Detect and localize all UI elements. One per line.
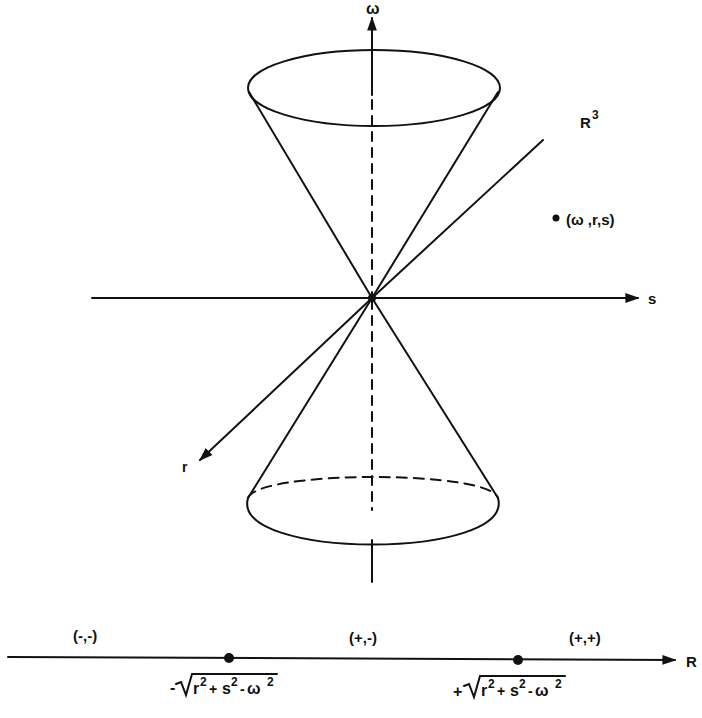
- r-axis-label: r: [182, 459, 188, 475]
- real-line-label: R: [686, 653, 697, 670]
- svg-text:3: 3: [592, 108, 599, 122]
- s-axis-label: s: [648, 290, 656, 307]
- svg-text:ω: ω: [247, 680, 261, 697]
- svg-text:2: 2: [231, 675, 238, 689]
- svg-text:r: r: [193, 680, 199, 697]
- svg-text:-: -: [170, 679, 175, 696]
- svg-text:s: s: [222, 680, 231, 697]
- right-root-point: [513, 655, 523, 665]
- region-label-neg-neg: (-,-): [73, 627, 97, 644]
- svg-text:2: 2: [488, 677, 495, 691]
- region-label-pos-pos: (+,+): [569, 629, 601, 646]
- svg-text:ω: ω: [535, 682, 549, 699]
- svg-text:+: +: [209, 681, 217, 697]
- svg-text:2: 2: [555, 677, 562, 691]
- sample-point: [553, 215, 560, 222]
- svg-text:-: -: [528, 683, 533, 699]
- svg-text:+: +: [453, 683, 462, 700]
- left-root-point: [224, 653, 234, 663]
- left-root-label: - r 2 + s 2 - ω 2: [170, 674, 277, 697]
- svg-text:s: s: [510, 682, 519, 699]
- region-label-pos-neg: (+,-): [349, 629, 377, 646]
- svg-text:2: 2: [519, 677, 526, 691]
- r3-label: R 3: [580, 108, 599, 131]
- omega-axis-label: ω: [366, 0, 380, 17]
- svg-text:R: R: [580, 114, 591, 131]
- origin-point: [368, 294, 376, 302]
- svg-text:2: 2: [200, 675, 207, 689]
- right-root-label: + r 2 + s 2 - ω 2: [453, 676, 565, 700]
- svg-text:+: +: [497, 683, 505, 699]
- upper-cone: [248, 50, 500, 298]
- svg-text:r: r: [481, 682, 487, 699]
- svg-text:-: -: [240, 681, 245, 697]
- real-line: [8, 653, 675, 665]
- sample-point-label: (ω ,r,s): [566, 211, 615, 228]
- svg-text:2: 2: [267, 675, 274, 689]
- double-cone-diagram: ω s r R 3 (ω ,r,s) R (-,-) (+,-) (+,+): [0, 0, 702, 718]
